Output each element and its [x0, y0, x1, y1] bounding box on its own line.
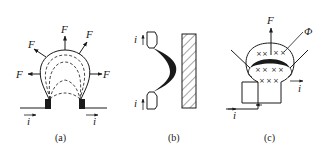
- force-label-upleft: F: [27, 38, 35, 50]
- diagram-canvas: F F F F F i i (a) i i (b): [0, 0, 324, 154]
- electrode-lower: [147, 92, 157, 109]
- panel-c: ×××× ×××× ××× F Φ i i (c): [226, 14, 313, 144]
- panel-a: F F F F F i i (a): [15, 23, 110, 144]
- svg-text:×: ×: [256, 50, 262, 58]
- current-label-left: i: [27, 115, 30, 127]
- current-label-upper: i: [134, 33, 137, 45]
- ferromagnetic-plate: [182, 34, 196, 108]
- electrode-left-line: [231, 50, 250, 68]
- magnetic-pole-outline: [246, 43, 294, 97]
- force-label-right: F: [102, 68, 110, 80]
- current-label-left: i: [233, 109, 236, 121]
- force-arrow-upright: [79, 42, 87, 54]
- panel-b: i i (b): [134, 32, 196, 144]
- caption-a: (a): [55, 132, 66, 144]
- current-label-lower: i: [134, 97, 137, 109]
- caption-b: (b): [168, 132, 180, 144]
- svg-text:×: ×: [278, 66, 284, 74]
- arc-bowed: [153, 48, 176, 92]
- current-label-right: i: [93, 115, 96, 127]
- blowout-coil: [242, 82, 281, 103]
- electrode-right-line: [290, 50, 308, 68]
- svg-text:×: ×: [262, 66, 268, 74]
- flux-label: Φ: [304, 25, 313, 37]
- flux-leader: [284, 32, 303, 52]
- svg-text:×: ×: [266, 77, 272, 85]
- force-label-upright: F: [85, 28, 93, 40]
- arc-dashed-4: [50, 93, 80, 99]
- current-label-right: i: [298, 82, 301, 94]
- svg-text:×: ×: [271, 66, 277, 74]
- force-label: F: [266, 14, 274, 26]
- svg-text:×: ×: [273, 49, 279, 57]
- electrode-right: [79, 99, 85, 109]
- svg-text:×: ×: [255, 66, 261, 74]
- magnetic-field-crosses: ×××× ×××× ×××: [255, 49, 286, 85]
- svg-text:×: ×: [259, 77, 265, 85]
- svg-text:×: ×: [273, 77, 279, 85]
- svg-text:×: ×: [280, 49, 286, 57]
- force-arrow-upleft: [34, 49, 46, 57]
- arc-dashed-2: [49, 62, 80, 99]
- svg-text:×: ×: [262, 50, 268, 58]
- electrode-left: [45, 99, 51, 109]
- force-label-left: F: [15, 68, 23, 80]
- force-label-top: F: [60, 23, 68, 35]
- arc-dashed-1: [45, 55, 84, 99]
- caption-c: (c): [264, 132, 275, 144]
- electrode-upper: [147, 32, 157, 48]
